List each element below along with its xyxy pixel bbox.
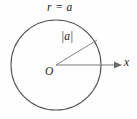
geometry-figure: r = a |a| O x <box>0 0 137 119</box>
x-axis-label: x <box>124 57 129 69</box>
radius-segment-line <box>56 40 97 65</box>
radius-magnitude-label: |a| <box>61 31 73 43</box>
x-axis-arrowhead-icon <box>114 62 122 69</box>
circle-equation-label: r = a <box>47 2 73 14</box>
figure-canvas <box>0 0 137 119</box>
origin-label: O <box>45 66 53 78</box>
